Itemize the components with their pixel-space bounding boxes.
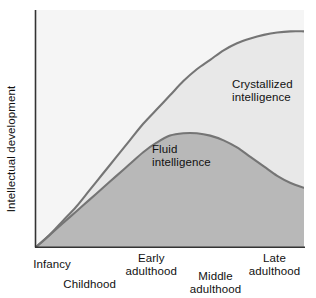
x-tick-label-infancy: Infancy	[9, 258, 95, 271]
x-tick-label-late-adulthood: Late adulthood	[232, 252, 316, 277]
chart-figure: Intellectual development	[0, 0, 316, 298]
x-tick-label-childhood: Childhood	[47, 278, 133, 291]
fluid-intelligence-label: Fluid intelligence	[152, 143, 211, 169]
crystallized-intelligence-label: Crystallized intelligence	[232, 78, 293, 104]
